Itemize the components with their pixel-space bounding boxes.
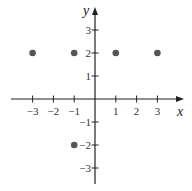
- x-tick-label: 2: [134, 105, 140, 117]
- y-axis-label: y: [81, 3, 90, 18]
- x-axis-arrow-icon: [176, 96, 184, 102]
- y-axis-arrow-icon: [92, 7, 98, 15]
- axes: [11, 7, 184, 184]
- data-point: [154, 50, 161, 57]
- data-point: [29, 50, 36, 57]
- x-axis-label: x: [176, 104, 184, 119]
- y-tick-label: 3: [86, 24, 92, 36]
- y-tick-label: 1: [86, 70, 92, 82]
- data-point: [71, 50, 78, 57]
- y-tick-label: −1: [79, 116, 91, 128]
- x-tick-label: −2: [48, 105, 60, 117]
- data-point: [71, 142, 78, 149]
- x-tick-label: −3: [27, 105, 39, 117]
- coordinate-plane: −3−2−1123 321−1−2−3 x y: [0, 0, 192, 191]
- y-tick-label: −2: [79, 139, 91, 151]
- y-tick-label: −3: [79, 162, 91, 174]
- data-point: [113, 50, 120, 57]
- x-tick-label: 3: [155, 105, 161, 117]
- y-tick-label: 2: [86, 47, 92, 59]
- x-tick-label: 1: [113, 105, 119, 117]
